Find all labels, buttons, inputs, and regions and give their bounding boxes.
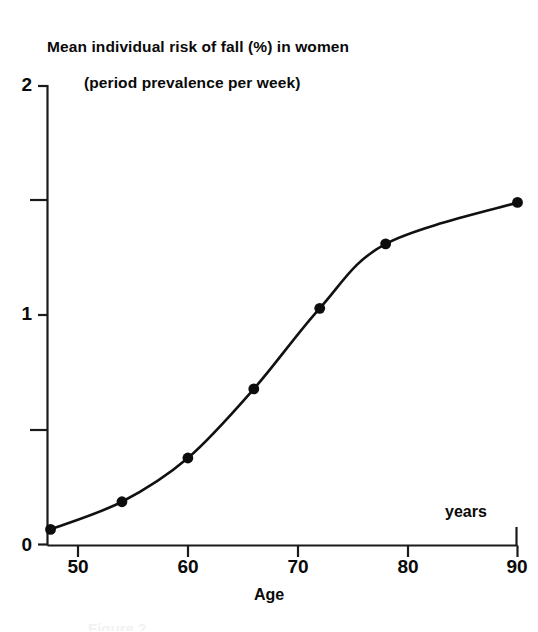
data-point-marker <box>512 197 523 208</box>
data-point-marker <box>248 384 259 395</box>
x-tick-label-50: 50 <box>58 556 98 578</box>
risk-curve <box>51 202 518 529</box>
data-point-marker <box>182 453 193 464</box>
chart-title-line-2: (period prevalence per week) <box>84 74 300 92</box>
x-tick-label-60: 60 <box>168 556 208 578</box>
cropped-caption-fragment: Figure 2 <box>88 620 146 631</box>
x-tick-label-70: 70 <box>278 556 318 578</box>
data-point-marker <box>117 496 128 507</box>
figure-container: Mean individual risk of fall (%) in wome… <box>0 0 538 632</box>
data-point-marker <box>45 524 56 535</box>
y-tick-label-1: 1 <box>8 303 32 325</box>
x-tick-label-80: 80 <box>388 556 428 578</box>
data-series-layer <box>45 197 523 535</box>
chart-title-line-1: Mean individual risk of fall (%) in wome… <box>47 38 349 56</box>
x-axis-title: Age <box>0 586 538 604</box>
data-point-marker <box>314 303 325 314</box>
x-tick-label-90: 90 <box>497 556 537 578</box>
y-tick-label-0: 0 <box>8 534 32 556</box>
plot-area <box>0 0 538 632</box>
y-tick-label-2: 2 <box>8 74 32 96</box>
data-point-marker <box>380 238 391 249</box>
x-axis-units-note: years <box>445 503 487 521</box>
x-axis <box>48 527 518 557</box>
y-axis <box>30 85 48 546</box>
